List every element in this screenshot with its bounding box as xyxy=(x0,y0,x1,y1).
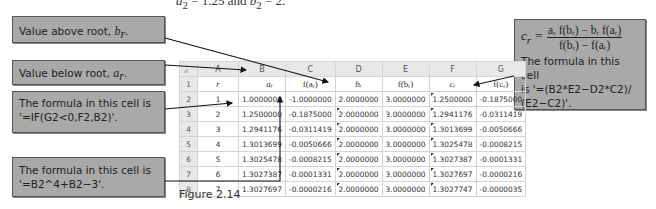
column-header-f[interactable]: F xyxy=(429,62,476,77)
cell[interactable]: -0.0001331 xyxy=(285,167,335,182)
cell[interactable]: aᵣ xyxy=(239,77,286,92)
column-header-d[interactable]: D xyxy=(335,62,382,77)
cell[interactable]: 2.0000000 xyxy=(335,152,382,167)
cell[interactable]: 2.0000000 xyxy=(335,107,382,122)
cell[interactable]: 1.3027387 xyxy=(239,167,286,182)
row-header[interactable]: 2 xyxy=(180,92,198,107)
cell[interactable]: 1.3027747 xyxy=(429,182,476,197)
cell[interactable]: -0.0000035 xyxy=(476,182,526,197)
cell[interactable]: -0.1875000 xyxy=(476,92,526,107)
row-header[interactable]: 7 xyxy=(180,167,198,182)
cell[interactable]: 1.3027697 xyxy=(429,167,476,182)
cell[interactable]: 2.0000000 xyxy=(335,137,382,152)
cell[interactable]: 3.0000000 xyxy=(382,122,429,137)
row-header[interactable]: 3 xyxy=(180,107,198,122)
cell[interactable]: 2.0000000 xyxy=(335,122,382,137)
cell[interactable]: 1.3013699 xyxy=(239,137,286,152)
cell[interactable]: -1.0000000 xyxy=(285,92,335,107)
table-row-header: 1 r aᵣ f(aᵣ) bᵣ f(bᵣ) cᵣ f(cᵣ) xyxy=(180,77,526,92)
cell[interactable]: 1.2941176 xyxy=(239,122,286,137)
cell[interactable]: -0.0050666 xyxy=(476,122,526,137)
cell[interactable]: -0.0000216 xyxy=(285,182,335,197)
cell[interactable]: -0.0001331 xyxy=(476,152,526,167)
cell[interactable]: 6 xyxy=(198,167,239,182)
cell[interactable]: 3.0000000 xyxy=(382,137,429,152)
row-header[interactable]: 1 xyxy=(180,77,198,92)
cell[interactable]: -0.0008215 xyxy=(476,137,526,152)
cell[interactable]: -0.0311419 xyxy=(476,107,526,122)
cell[interactable]: 3.0000000 xyxy=(382,167,429,182)
column-header-e[interactable]: E xyxy=(382,62,429,77)
column-header-b[interactable]: B xyxy=(239,62,286,77)
table-row: 7 6 1.3027387 -0.0001331 2.0000000 3.000… xyxy=(180,167,526,182)
column-header-a[interactable]: A xyxy=(198,62,239,77)
preceding-text: a2 = 1.25 and b2 = 2. xyxy=(176,0,285,11)
cell[interactable]: 1.3027697 xyxy=(239,182,286,197)
cell[interactable]: 1.2941176 xyxy=(429,107,476,122)
cell[interactable]: cᵣ xyxy=(429,77,476,92)
cell[interactable]: 2.0000000 xyxy=(335,167,382,182)
cr-equation: cr = aᵣ f(bᵣ) − bᵣ f(aᵣ) f(bᵣ) − f(aᵣ) xyxy=(521,23,639,52)
figure-caption: Figure 2.14 xyxy=(179,188,241,201)
cell[interactable]: 1.2500000 xyxy=(429,92,476,107)
cell[interactable]: 3.0000000 xyxy=(382,182,429,197)
cell[interactable]: 3.0000000 xyxy=(382,152,429,167)
cell[interactable]: 1.2500000 xyxy=(239,107,286,122)
column-header-row: ◢ A B C D E F G xyxy=(180,62,526,77)
table-row: 5 4 1.3013699 -0.0050666 2.0000000 3.000… xyxy=(180,137,526,152)
cell[interactable]: -0.1875000 xyxy=(285,107,335,122)
table-row: 3 2 1.2500000 -0.1875000 2.0000000 3.000… xyxy=(180,107,526,122)
cell[interactable]: r xyxy=(198,77,239,92)
row-header[interactable]: 6 xyxy=(180,152,198,167)
cell[interactable]: -0.0311419 xyxy=(285,122,335,137)
cell[interactable]: -0.0050666 xyxy=(285,137,335,152)
spreadsheet: ◢ A B C D E F G 1 r aᵣ f(aᵣ) bᵣ f(bᵣ) cᵣ… xyxy=(179,61,526,197)
cell[interactable]: 1.3027387 xyxy=(429,152,476,167)
cell[interactable]: 2.0000000 xyxy=(335,92,382,107)
select-all-corner[interactable]: ◢ xyxy=(180,62,198,77)
cell[interactable]: 3.0000000 xyxy=(382,107,429,122)
callout-cr-formula: cr = aᵣ f(bᵣ) − bᵣ f(aᵣ) f(bᵣ) − f(aᵣ) T… xyxy=(514,19,646,110)
table-row: 6 5 1.3025478 -0.0008215 2.0000000 3.000… xyxy=(180,152,526,167)
cell[interactable]: bᵣ xyxy=(335,77,382,92)
cell[interactable]: 2.0000000 xyxy=(335,182,382,197)
table-row: 2 1 1.0000000 -1.0000000 2.0000000 3.000… xyxy=(180,92,526,107)
cell[interactable]: 5 xyxy=(198,152,239,167)
callout-if-formula: The formula in this cell is '=IF(G2<0,F2… xyxy=(12,91,165,133)
cell[interactable]: 1.3013699 xyxy=(429,122,476,137)
callout-value-above-root: Value above root, br. xyxy=(12,16,165,43)
cell[interactable]: 3 xyxy=(198,122,239,137)
row-header[interactable]: 4 xyxy=(180,122,198,137)
cell[interactable]: 1.3025478 xyxy=(429,137,476,152)
row-header[interactable]: 5 xyxy=(180,137,198,152)
cell[interactable]: 4 xyxy=(198,137,239,152)
cell[interactable]: 3.0000000 xyxy=(382,92,429,107)
cell[interactable]: 1.3025478 xyxy=(239,152,286,167)
cell[interactable]: 1.0000000 xyxy=(239,92,286,107)
callout-power-formula: The formula in this cell is '=B2^4+B2−3'… xyxy=(12,157,165,197)
column-header-g[interactable]: G xyxy=(476,62,526,77)
column-header-c[interactable]: C xyxy=(285,62,335,77)
callout-value-below-root: Value below root, ar. xyxy=(12,60,165,85)
cell[interactable]: f(aᵣ) xyxy=(285,77,335,92)
cell[interactable]: f(bᵣ) xyxy=(382,77,429,92)
cell[interactable]: -0.0008215 xyxy=(285,152,335,167)
table-row: 4 3 1.2941176 -0.0311419 2.0000000 3.000… xyxy=(180,122,526,137)
cell[interactable]: 2 xyxy=(198,107,239,122)
cell[interactable]: 1 xyxy=(198,92,239,107)
cell[interactable]: -0.0000216 xyxy=(476,167,526,182)
cell[interactable]: f(cᵣ) xyxy=(476,77,526,92)
